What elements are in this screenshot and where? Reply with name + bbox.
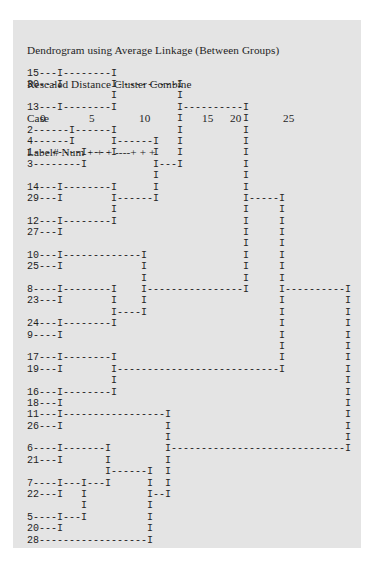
dendrogram-row: I I bbox=[27, 500, 351, 511]
dendrogram-row: 20---I I bbox=[27, 523, 351, 534]
dendrogram-row: I I I bbox=[27, 204, 351, 215]
dendrogram-row: I I bbox=[27, 90, 351, 101]
dendrogram-row: 13---I--------I I----------I bbox=[27, 102, 351, 113]
dendrogram-row: I I bbox=[27, 238, 351, 249]
dendrogram-row: 3--------I I---I I bbox=[27, 159, 351, 170]
dendrogram-row: 26---I I I bbox=[27, 421, 351, 432]
dendrogram-row: 19---I I---------------------------I I bbox=[27, 364, 351, 375]
dendrogram-row: 24---I--------I I I bbox=[27, 318, 351, 329]
dendrogram-row: 29---I I------I I-----I bbox=[27, 193, 351, 204]
dendrogram-row: 5----I---I I bbox=[27, 512, 351, 523]
dendrogram-row: 7----I---I---I I I bbox=[27, 478, 351, 489]
dendrogram-title: Dendrogram using Average Linkage (Betwee… bbox=[27, 45, 279, 56]
dendrogram-row: 2------I------I I I bbox=[27, 125, 351, 136]
dendrogram-row: 30---I I----------I bbox=[27, 79, 351, 90]
dendrogram-row: 12---I--------I I I bbox=[27, 216, 351, 227]
dendrogram-row: 17---I--------I I I bbox=[27, 352, 351, 363]
dendrogram-row: I----I I I bbox=[27, 307, 351, 318]
dendrogram-row: 27---I I I bbox=[27, 227, 351, 238]
dendrogram-tree: 15---I--------I30---I I----------I I I13… bbox=[27, 68, 351, 546]
dendrogram-row: 18---I I bbox=[27, 398, 351, 409]
dendrogram-row: 9----I I I bbox=[27, 330, 351, 341]
dendrogram-row: I------I I bbox=[27, 466, 351, 477]
dendrogram-row: 11---I-----------------I I bbox=[27, 409, 351, 420]
dendrogram-row: 10---I-------------I I I bbox=[27, 250, 351, 261]
dendrogram-row: I I bbox=[27, 113, 351, 124]
dendrogram-row: 1--------I----I I I I bbox=[27, 147, 351, 158]
dendrogram-row: I I bbox=[27, 432, 351, 443]
dendrogram-row: I I bbox=[27, 170, 351, 181]
dendrogram-row: 25---I I I I bbox=[27, 261, 351, 272]
dendrogram-row: 14---I--------I I I bbox=[27, 182, 351, 193]
dendrogram-row: 22---I I I--I bbox=[27, 489, 351, 500]
dendrogram-row: 15---I--------I bbox=[27, 68, 351, 79]
dendrogram-row: I I I bbox=[27, 273, 351, 284]
dendrogram-row: I I bbox=[27, 375, 351, 386]
dendrogram-row: 8----I--------I I----------------I I----… bbox=[27, 284, 351, 295]
dendrogram-row: 21---I I I bbox=[27, 455, 351, 466]
dendrogram-row: 28------------------I bbox=[27, 535, 351, 546]
dendrogram-row: I I bbox=[27, 341, 351, 352]
dendrogram-row: 23---I I I I I bbox=[27, 295, 351, 306]
dendrogram-row: 6----I-------I I------------------------… bbox=[27, 443, 351, 454]
dendrogram-row: 16---I--------I I bbox=[27, 387, 351, 398]
dendrogram-row: 4------I I------I I I bbox=[27, 136, 351, 147]
